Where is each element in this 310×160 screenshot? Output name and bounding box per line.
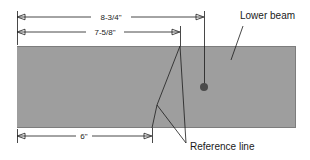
- lower-beam-shape: [17, 46, 296, 128]
- dimension-overall: 8-3/4": [17, 13, 204, 22]
- beam-fill: [17, 46, 296, 128]
- callout-lower-beam-label: Lower beam: [240, 10, 295, 21]
- beam-diagram: 8-3/4" 7-5/8" 6" Lower beam: [0, 0, 310, 160]
- layout-mark-dot: [200, 83, 208, 91]
- dimension-bottom: 6": [17, 132, 152, 141]
- dimension-bottom-label: 6": [80, 132, 87, 141]
- diagram-canvas: 8-3/4" 7-5/8" 6" Lower beam: [0, 0, 310, 160]
- callout-reference-line-label: Reference line: [190, 141, 255, 152]
- dimension-overall-label: 8-3/4": [100, 13, 121, 22]
- dimension-intermediate-label: 7-5/8": [94, 28, 115, 37]
- dimension-intermediate: 7-5/8": [17, 28, 180, 37]
